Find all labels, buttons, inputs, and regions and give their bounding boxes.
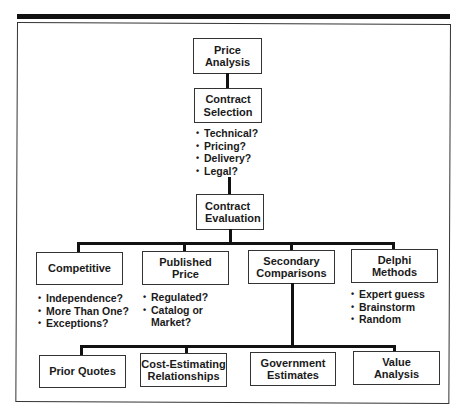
drop-secondary-comparisons: [290, 242, 293, 250]
node-secondary-comparisons: Secondary Comparisons: [248, 250, 335, 284]
drop-published-price: [183, 242, 186, 251]
note-item: More Than One?: [38, 305, 129, 318]
selection-criteria-list: Technical? Pricing? Delivery? Legal?: [196, 127, 258, 177]
criteria-item: Pricing?: [196, 140, 258, 153]
node-contract-selection: Contract Selection: [194, 88, 262, 123]
criteria-item: Delivery?: [196, 152, 258, 165]
note-item: Regulated?: [143, 291, 208, 304]
node-delphi-methods: Delphi Methods: [351, 249, 438, 283]
drop-prior-quotes: [80, 345, 83, 355]
top-rule: [17, 14, 450, 19]
criteria-item: Legal?: [196, 165, 258, 178]
note-item: Brainstorm: [351, 301, 425, 314]
note-item: Catalog or: [143, 304, 208, 317]
node-price-analysis: Price Analysis: [193, 38, 262, 74]
competitive-notes: Independence? More Than One? Exceptions?: [38, 292, 129, 330]
bus-comparisons: [80, 345, 396, 348]
connector-root-selection: [226, 73, 229, 88]
note-item: Random: [351, 313, 425, 326]
published-price-notes: Regulated? Catalog or Market?: [143, 291, 208, 329]
note-item-continuation: Market?: [143, 316, 208, 329]
node-cost-estimating-relationships: Cost-Estimating Relationships: [140, 353, 227, 387]
criteria-item: Technical?: [196, 127, 258, 140]
node-contract-evaluation: Contract Evaluation: [196, 194, 264, 230]
node-published-price: Published Price: [142, 251, 229, 285]
note-item: Expert guess: [351, 288, 425, 301]
delphi-methods-notes: Expert guess Brainstorm Random: [351, 288, 425, 326]
node-competitive: Competitive: [36, 252, 123, 285]
drop-delphi-methods: [392, 242, 395, 249]
node-prior-quotes: Prior Quotes: [39, 355, 126, 388]
node-value-analysis: Value Analysis: [353, 351, 440, 385]
connector-secondary-bus: [291, 283, 294, 347]
note-item: Independence?: [38, 292, 129, 305]
drop-competitive: [77, 242, 80, 252]
bus-methods: [77, 242, 395, 245]
note-item: Exceptions?: [38, 317, 129, 330]
node-government-estimates: Government Estimates: [250, 352, 336, 386]
connector-selection-evaluation: [228, 177, 231, 194]
